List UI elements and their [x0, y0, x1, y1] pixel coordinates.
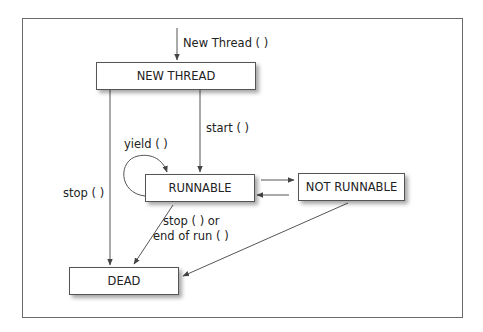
- yield-label: yield ( ): [124, 137, 168, 151]
- state-dead: DEAD: [69, 267, 179, 295]
- stop-runnable-label-line1: stop ( ) or: [163, 214, 220, 228]
- stop-runnable-label-line2: end of run ( ): [153, 229, 229, 243]
- start-label: start ( ): [206, 121, 249, 135]
- state-runnable: RUNNABLE: [145, 174, 255, 202]
- state-dead-label: DEAD: [108, 274, 141, 288]
- state-not-runnable: NOT RUNNABLE: [298, 173, 405, 201]
- state-new-thread: NEW THREAD: [96, 62, 256, 90]
- state-not-runnable-label: NOT RUNNABLE: [306, 180, 397, 194]
- create-label: New Thread ( ): [183, 36, 268, 50]
- stop-new-label: stop ( ): [63, 186, 104, 200]
- state-new-thread-label: NEW THREAD: [137, 69, 216, 83]
- state-runnable-label: RUNNABLE: [168, 181, 231, 195]
